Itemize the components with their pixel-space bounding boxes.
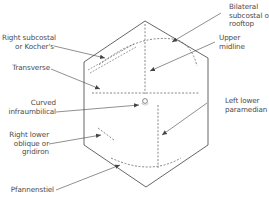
label-curved-infraumbilical: Curved infraumbilical bbox=[2, 99, 56, 116]
arrow-transverse bbox=[51, 69, 100, 89]
umbilicus-icon bbox=[143, 99, 148, 104]
label-upper-midline: Upper midline bbox=[219, 34, 245, 51]
label-right-lower-oblique: Right lower oblique or gridiron bbox=[2, 131, 49, 157]
arrow-curved-infraumbilical bbox=[56, 105, 139, 112]
arrow-right-subcostal bbox=[54, 46, 105, 58]
label-bilateral-subcostal: Bilateral subcostal or rooftop bbox=[229, 3, 269, 29]
arrow-right-lower-oblique bbox=[49, 135, 101, 144]
pfannenstiel-incision bbox=[111, 158, 181, 167]
right-lower-oblique-incision bbox=[98, 128, 114, 140]
right-subcostal-incision bbox=[88, 44, 134, 70]
label-left-lower-paramedian: Left lower paramedian bbox=[225, 97, 267, 114]
arrow-pfannenstiel bbox=[56, 165, 120, 190]
label-pfannenstiel: Pfannenstiel bbox=[2, 186, 54, 195]
arrow-bilateral-subcostal bbox=[172, 13, 221, 42]
right-subcostal-incision-2 bbox=[90, 47, 136, 73]
torso-outline bbox=[84, 21, 208, 187]
label-transverse: Transverse bbox=[2, 64, 50, 73]
arrow-left-lower-paramedian bbox=[162, 103, 207, 135]
label-right-subcostal: Right subcostal or Kocher's bbox=[2, 34, 54, 51]
